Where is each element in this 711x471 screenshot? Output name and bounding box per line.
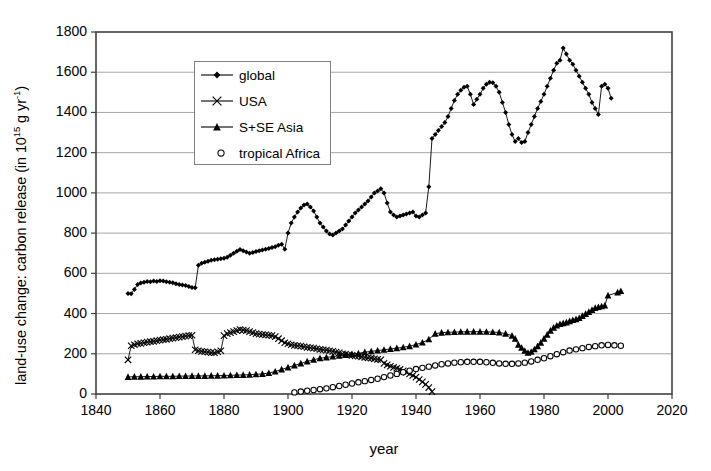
- x-tick-label: 1980: [514, 402, 574, 418]
- y-tick-label: 0: [29, 385, 87, 401]
- legend-item-tropical-africa: tropical Africa: [195, 140, 332, 166]
- x-axis-title: year: [96, 440, 672, 457]
- x-tick-label: 1860: [130, 402, 190, 418]
- legend-label: S+SE Asia: [239, 120, 303, 135]
- y-tick-label: 1000: [29, 184, 87, 200]
- y-tick-label: 800: [29, 224, 87, 240]
- y-tick-label: 600: [29, 264, 87, 280]
- x-tick-label: 1880: [194, 402, 254, 418]
- series-usa: [125, 326, 435, 394]
- x-tick-label: 1920: [322, 402, 382, 418]
- x-tick-label: 2000: [578, 402, 638, 418]
- diamond-marker-icon: [195, 62, 239, 88]
- circle-open-marker-icon: [195, 140, 239, 166]
- x-tick-label: 1960: [450, 402, 510, 418]
- chart-legend: globalUSAS+SE Asiatropical Africa: [194, 61, 331, 165]
- triangle-marker-icon: [195, 114, 239, 140]
- legend-label: tropical Africa: [239, 146, 320, 161]
- legend-item-usa: USA: [195, 88, 332, 114]
- chart-figure: land-use change: carbon release (in 1015…: [0, 0, 711, 471]
- y-tick-label: 1200: [29, 144, 87, 160]
- x-tick-label: 1840: [66, 402, 126, 418]
- y-tick-label: 1400: [29, 103, 87, 119]
- x-tick-label: 1900: [258, 402, 318, 418]
- legend-item-global: global: [195, 62, 332, 88]
- legend-label: USA: [239, 94, 267, 109]
- y-tick-label: 400: [29, 305, 87, 321]
- y-tick-label: 1800: [29, 23, 87, 39]
- plot-canvas: [0, 0, 711, 471]
- legend-item-s-se-asia: S+SE Asia: [195, 114, 332, 140]
- x-tick-label: 2020: [642, 402, 702, 418]
- legend-label: global: [239, 68, 275, 83]
- x-marker-icon: [195, 88, 239, 114]
- series-s-se-asia: [125, 287, 625, 379]
- x-tick-label: 1940: [386, 402, 446, 418]
- y-tick-label: 200: [29, 345, 87, 361]
- y-tick-label: 1600: [29, 63, 87, 79]
